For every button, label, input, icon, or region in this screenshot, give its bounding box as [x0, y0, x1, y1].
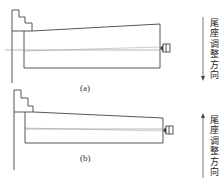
- chuck-b: [14, 90, 33, 112]
- workpiece-b: [25, 112, 163, 143]
- workpiece-axis-b: [25, 128, 163, 131]
- direction-label-a: 尾座调整方向: [209, 18, 220, 80]
- caption-a: (a): [80, 83, 90, 93]
- workpiece-a: [24, 24, 160, 68]
- tailstock-alignment-diagram: [0, 0, 224, 188]
- tailstock-center-a: [160, 44, 170, 52]
- workpiece-axis-a: [24, 47, 160, 51]
- chuck-a: [12, 10, 32, 31]
- direction-label-b: 尾座调整方向: [209, 115, 220, 177]
- arrow-head-down-icon: [201, 76, 205, 81]
- tailstock-center-b: [163, 126, 173, 134]
- panel-b: [14, 90, 205, 178]
- panel-a: [5, 10, 205, 83]
- caption-b: (b): [80, 153, 91, 163]
- arrow-head-up-icon: [201, 113, 205, 118]
